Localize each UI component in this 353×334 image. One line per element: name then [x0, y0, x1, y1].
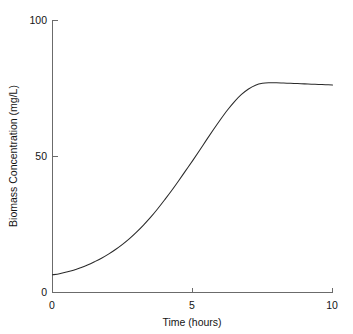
y-tick-label-50: 50: [35, 150, 47, 162]
chart-figure: 100 50 0 0 5 10 Time (hours) Biomass Con…: [0, 0, 353, 334]
line-chart-canvas: 100 50 0 0 5 10 Time (hours) Biomass Con…: [0, 0, 353, 334]
y-tick-label-100: 100: [29, 14, 47, 26]
biomass-growth-curve: [53, 83, 333, 275]
x-axis-title: Time (hours): [162, 316, 221, 328]
y-tick-label-0: 0: [41, 286, 47, 298]
x-tick-label-10: 10: [326, 299, 338, 311]
x-tick-label-0: 0: [49, 299, 55, 311]
x-tick-label-5: 5: [189, 299, 195, 311]
y-axis-title: Biomass Concentration (mg/L): [7, 85, 19, 227]
